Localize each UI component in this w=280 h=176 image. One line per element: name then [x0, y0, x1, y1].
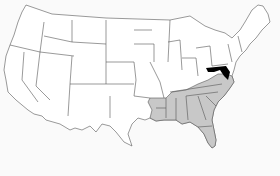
us-map — [0, 0, 280, 176]
